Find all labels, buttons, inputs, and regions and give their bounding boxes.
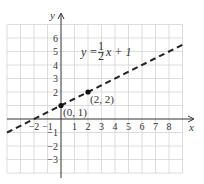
y-tick-labels: 6 5 4 3 2 −1 −2 −3 <box>47 33 58 166</box>
x-tick: 5 <box>126 121 131 132</box>
x-tick: 7 <box>153 121 158 132</box>
x-tick: 4 <box>113 121 118 132</box>
y-tick: 6 <box>53 33 58 44</box>
equation-denominator: 2 <box>98 49 104 63</box>
equation-lhs: y = <box>80 45 97 59</box>
x-tick: 3 <box>99 121 104 132</box>
x-tick: 2 <box>86 121 91 132</box>
y-tick: 2 <box>53 87 58 98</box>
x-tick: −2 <box>29 121 40 132</box>
x-tick: 1 <box>72 121 77 132</box>
coordinate-plane: x y −2 −1 1 2 3 4 5 6 7 8 6 5 4 3 2 −1 −… <box>0 0 204 184</box>
y-tick: −2 <box>47 141 58 152</box>
x-tick: 8 <box>167 121 172 132</box>
equation-rhs: x + 1 <box>105 45 131 59</box>
y-tick: −1 <box>47 127 58 138</box>
x-tick: 6 <box>140 121 145 132</box>
y-tick: −3 <box>47 154 58 165</box>
y-tick: 3 <box>53 73 58 84</box>
y-tick: 5 <box>53 46 58 57</box>
y-axis-label: y <box>49 9 55 21</box>
point-label-2-2: (2, 2) <box>90 93 114 106</box>
point-label-0-1: (0, 1) <box>63 106 87 119</box>
y-tick: 4 <box>53 60 58 71</box>
x-axis-label: x <box>188 121 194 133</box>
